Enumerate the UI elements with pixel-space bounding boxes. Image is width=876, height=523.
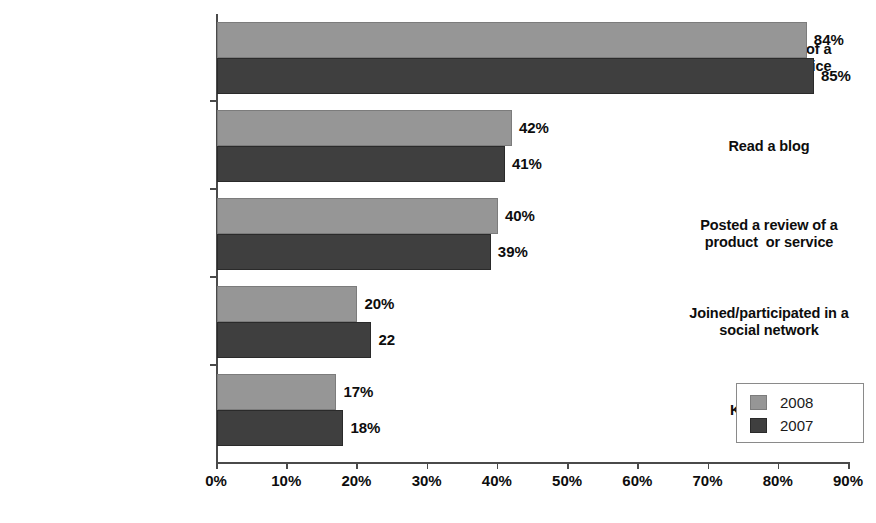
chart-legend: 2008 2007: [736, 383, 864, 443]
bar-value-label: 40%: [505, 207, 535, 224]
x-axis-tick-label: 90%: [833, 472, 863, 489]
x-axis-tick-label: 80%: [763, 472, 793, 489]
bar: [217, 234, 491, 270]
legend-entry-2007: 2007: [750, 415, 813, 435]
x-axis-tick: [286, 462, 288, 469]
x-axis-tick-label: 60%: [622, 472, 652, 489]
x-axis-tick-label: 20%: [341, 472, 371, 489]
bar-value-label: 85%: [821, 67, 851, 84]
x-axis-tick-label: 40%: [482, 472, 512, 489]
y-axis-tick: [210, 276, 216, 278]
legend-label-2007: 2007: [780, 417, 813, 434]
legend-entry-2008: 2008: [750, 392, 813, 412]
bar-chart: Read a review of a product or serviceRea…: [0, 0, 876, 523]
x-axis-tick-label: 0%: [205, 472, 227, 489]
bar: [217, 322, 371, 358]
x-axis-line: [216, 462, 848, 464]
x-axis-tick: [567, 462, 569, 469]
bar: [217, 22, 807, 58]
bar: [217, 110, 512, 146]
legend-label-2008: 2008: [780, 394, 813, 411]
x-axis-tick: [497, 462, 499, 469]
y-axis-tick: [210, 364, 216, 366]
x-axis-tick: [708, 462, 710, 469]
bar-value-label: 84%: [814, 31, 844, 48]
y-axis-tick: [210, 100, 216, 102]
bar: [217, 198, 498, 234]
bar-value-label: 18%: [350, 419, 380, 436]
x-axis-tick: [427, 462, 429, 469]
bar: [217, 374, 336, 410]
x-axis-tick: [778, 462, 780, 469]
x-axis-tick-label: 30%: [412, 472, 442, 489]
x-axis-tick: [637, 462, 639, 469]
bar-value-label: 42%: [519, 119, 549, 136]
legend-swatch-icon-2008: [750, 395, 767, 410]
bar: [217, 146, 505, 182]
x-axis-tick: [216, 462, 218, 469]
bar-value-label: 41%: [512, 155, 542, 172]
bar-value-label: 17%: [343, 383, 373, 400]
legend-swatch-icon-2007: [750, 418, 767, 433]
bar: [217, 286, 357, 322]
x-axis-tick: [848, 462, 850, 469]
bar-value-label: 39%: [498, 243, 528, 260]
x-axis-tick-label: 70%: [693, 472, 723, 489]
x-axis-tick: [356, 462, 358, 469]
bar: [217, 410, 343, 446]
bar: [217, 58, 814, 94]
x-axis-tick-label: 50%: [552, 472, 582, 489]
bar-value-label: 22: [378, 331, 395, 348]
y-axis-tick: [210, 188, 216, 190]
x-axis-tick-label: 10%: [271, 472, 301, 489]
bar-value-label: 20%: [364, 295, 394, 312]
